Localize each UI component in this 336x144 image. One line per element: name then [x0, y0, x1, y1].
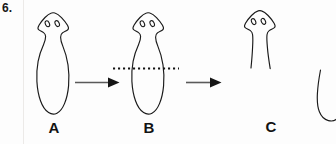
planarian-a-outline — [37, 13, 69, 114]
planarian-stage-d-cropped — [317, 70, 336, 121]
planarian-b-outline — [132, 13, 164, 114]
planarian-a-eyespot-right — [54, 20, 60, 27]
arrow-a-to-b — [75, 78, 120, 88]
arrow-b-to-c — [186, 78, 222, 88]
planarian-c-eyespot-right — [260, 18, 266, 25]
planarian-b-eyespot-left — [139, 20, 145, 27]
planarian-a-eyespot-left — [44, 20, 50, 27]
stage-label-a: A — [42, 120, 66, 135]
stage-label-b: B — [137, 120, 161, 135]
planarian-b-eyespot-right — [149, 20, 155, 27]
figure-container: 6. — [0, 0, 336, 144]
planarian-stage-b — [113, 13, 179, 114]
planarian-c-eyespot-left — [250, 18, 256, 25]
planarian-stage-c — [245, 11, 276, 69]
planarian-c-head-outline — [245, 11, 276, 69]
stage-label-c: C — [259, 119, 283, 134]
planarian-d-partial-outline — [317, 70, 336, 121]
planarian-stage-a — [37, 13, 69, 114]
